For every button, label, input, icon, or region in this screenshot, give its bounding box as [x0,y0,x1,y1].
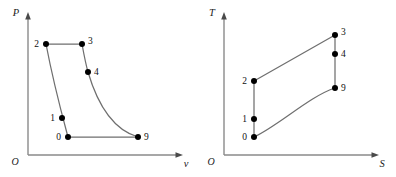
pv-x-axis-arrowhead [176,152,184,158]
ts-state-label-4: 4 [341,49,346,59]
thermodynamic-cycle-figure: P v O 0 1 2 3 4 9 [0,0,396,177]
ts-state-label-9: 9 [341,83,346,93]
ts-state-point-3 [332,32,338,38]
ts-state-point-1 [251,116,257,122]
pv-state-label-9: 9 [144,132,149,142]
pv-y-axis-arrowhead [25,12,31,20]
ts-state-label-0: 0 [242,132,247,142]
ts-diagram-panel: T S O 0 1 2 3 4 9 [207,7,385,169]
ts-x-axis-arrowhead [372,152,380,158]
pv-state-label-0: 0 [56,132,61,142]
pv-state-label-1: 1 [50,113,55,123]
ts-y-axis-label: T [209,7,216,18]
ts-state-label-2: 2 [242,76,247,86]
pv-state-label-4: 4 [94,67,99,77]
ts-state-label-1: 1 [242,114,247,124]
pv-state-point-1 [59,115,65,121]
ts-state-point-9 [332,85,338,91]
ts-state-point-4 [332,51,338,57]
pv-state-point-2 [43,41,49,47]
pv-diagram-panel: P v O 0 1 2 3 4 9 [11,7,188,169]
ts-state-label-3: 3 [341,27,346,37]
pv-y-axis-label: P [12,7,20,18]
pv-state-label-2: 2 [34,39,39,49]
ts-segment-heat-rejection-9-0 [254,88,335,137]
ts-segment-heat-addition-2-3 [254,35,335,81]
pv-state-point-0 [65,134,71,140]
ts-origin-label: O [207,156,214,167]
pv-state-point-3 [79,41,85,47]
figure-canvas: P v O 0 1 2 3 4 9 [0,0,396,177]
ts-y-axis-arrowhead [221,12,227,20]
ts-state-point-0 [251,134,257,140]
pv-segment-expansion-4-9 [88,72,138,137]
pv-state-point-4 [85,69,91,75]
ts-state-point-2 [251,78,257,84]
pv-segment-compression-0-1-2 [46,44,68,137]
pv-origin-label: O [11,156,18,167]
pv-state-label-3: 3 [88,36,93,46]
pv-state-point-9 [135,134,141,140]
pv-x-axis-label: v [184,158,189,169]
pv-segment-expansion-3-4 [82,44,88,72]
ts-x-axis-label: S [379,158,385,169]
